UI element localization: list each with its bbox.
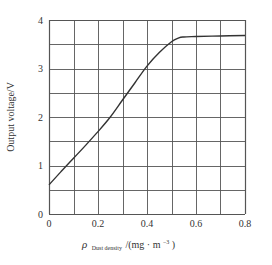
y-tick-label: 4 bbox=[38, 15, 43, 26]
y-tick-label: 1 bbox=[38, 160, 43, 171]
unit-close: ) bbox=[172, 239, 175, 251]
y-axis-label: Output voltage/V bbox=[5, 81, 16, 151]
y-tick-label: 0 bbox=[38, 209, 43, 220]
chart-grid bbox=[49, 20, 246, 215]
rho-symbol: ρ bbox=[81, 238, 87, 250]
x-axis-label: ρ Dust density /(mg · m −3 ) bbox=[81, 235, 175, 252]
x-tick-label: 0.6 bbox=[190, 218, 203, 229]
unit-exponent: −3 bbox=[163, 239, 169, 245]
y-tick-label: 3 bbox=[38, 63, 43, 74]
x-tick-label: 0 bbox=[47, 218, 52, 229]
x-tick-label: 0.8 bbox=[239, 218, 252, 229]
x-tick-label: 0.2 bbox=[92, 218, 105, 229]
y-tick-label: 2 bbox=[38, 112, 43, 123]
voltage-curve bbox=[49, 36, 245, 185]
y-axis-ticks: 01234 bbox=[38, 15, 43, 220]
x-tick-label: 0.4 bbox=[141, 218, 154, 229]
unit-text: /(mg · m bbox=[125, 239, 160, 251]
dust-density-subscript: Dust density bbox=[92, 245, 122, 251]
line-chart: 01234 00.20.40.60.8 Output voltage/V ρ D… bbox=[0, 0, 272, 265]
x-axis-ticks: 00.20.40.60.8 bbox=[47, 218, 252, 229]
